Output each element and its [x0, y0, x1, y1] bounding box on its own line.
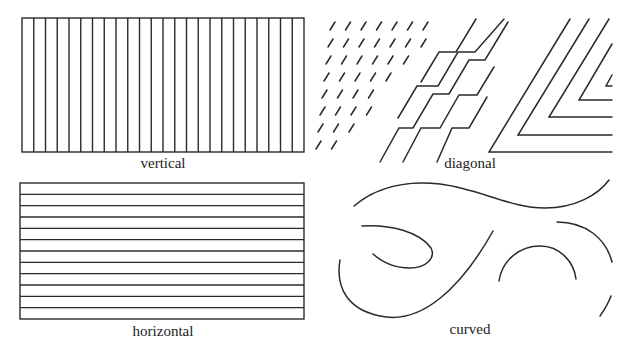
horizontal-lines-panel	[20, 183, 304, 319]
curved-lines-panel	[339, 180, 612, 317]
line-types-figure	[0, 0, 633, 352]
horizontal-label: horizontal	[133, 323, 194, 340]
diagonal-label: diagonal	[444, 155, 496, 172]
dashed-diagonal-lines	[316, 22, 428, 149]
vertical-label: vertical	[141, 155, 186, 172]
s-curve	[354, 180, 609, 208]
vertical-lines-panel	[22, 18, 304, 152]
hook-curve	[362, 226, 432, 268]
arch-curve	[499, 246, 576, 281]
small-arc	[600, 296, 611, 316]
nested-l-shapes	[489, 19, 612, 152]
loop-curve	[339, 231, 493, 317]
curved-label: curved	[450, 321, 491, 338]
diagonal-lines-panel	[316, 19, 612, 162]
staircase-lines	[380, 19, 508, 162]
